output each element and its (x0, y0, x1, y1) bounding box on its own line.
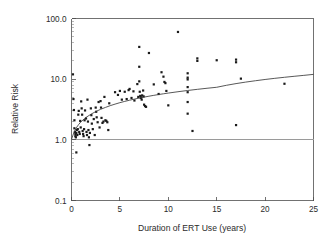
scatter-point (165, 90, 167, 92)
scatter-point (138, 80, 140, 82)
scatter-point (187, 113, 189, 115)
scatter-point (95, 106, 97, 108)
scatter-point (73, 109, 75, 111)
scatter-point (98, 101, 100, 103)
scatter-point (119, 90, 121, 92)
scatter-point (164, 82, 166, 84)
scatter-point (136, 83, 138, 85)
y-tick-label: 100.0 (46, 15, 67, 24)
scatter-point (187, 91, 189, 93)
scatter-point (107, 129, 109, 131)
scatter-point (89, 132, 91, 134)
scatter-point (87, 129, 89, 131)
scatter-point (139, 91, 141, 93)
scatter-point (79, 133, 81, 135)
scatter-point (76, 134, 78, 136)
scatter-point (235, 61, 237, 63)
scatter-point (114, 91, 116, 93)
scatter-point (187, 101, 189, 103)
y-tick-label: 0.1 (55, 197, 67, 206)
scatter-point (75, 132, 77, 134)
scatter-point (75, 151, 77, 153)
scatter-point (196, 60, 198, 62)
scatter-point (138, 46, 140, 48)
scatter-point (93, 118, 95, 120)
scatter-point (84, 109, 86, 111)
scatter-point (81, 107, 83, 109)
x-tick-label: 20 (261, 205, 271, 214)
scatter-point (75, 136, 77, 138)
scatter-point (102, 120, 104, 122)
scatter-point (72, 98, 74, 100)
scatter-point (187, 86, 189, 88)
scatter-point (98, 126, 100, 128)
y-tick-label: 10.0 (51, 75, 67, 84)
scatter-point (133, 99, 135, 101)
scatter-point (132, 90, 134, 92)
scatter-point (187, 72, 189, 74)
scatter-point (187, 78, 189, 80)
scatter-point (87, 120, 89, 122)
scatter-point (128, 88, 130, 90)
scatter-point (106, 121, 108, 123)
scatter-point (82, 133, 84, 135)
x-tick-label: 0 (69, 205, 74, 214)
scatter-point (73, 119, 75, 121)
scatter-point (103, 96, 105, 98)
scatter-point (88, 136, 90, 138)
scatter-point (80, 126, 82, 128)
x-axis-title: Duration of ERT Use (years) (138, 223, 246, 233)
scatter-point (121, 99, 123, 101)
scatter-point (148, 52, 150, 54)
scatter-point (88, 144, 90, 146)
y-tick-label: 1.0 (55, 136, 67, 145)
scatter-point (73, 127, 75, 129)
scatter-point (117, 94, 119, 96)
scatter-point (86, 99, 88, 101)
x-tick-label: 10 (164, 205, 174, 214)
scatter-point (145, 106, 147, 108)
scatter-point (196, 57, 198, 59)
scatter-point (85, 131, 87, 133)
scatter-point (240, 78, 242, 80)
scatter-point (124, 91, 126, 93)
scatter-point (141, 99, 143, 101)
scatter-point (100, 106, 102, 108)
scatter-point (283, 83, 285, 85)
scatter-point (77, 128, 79, 130)
scatter-point (235, 124, 237, 126)
scatter-point (83, 128, 85, 130)
scatter-point (77, 114, 79, 116)
scatter-point (99, 100, 101, 102)
scatter-point (153, 83, 155, 85)
chart-figure: 0.11.010.0100.0 0510152025 Duration of E… (0, 0, 332, 241)
scatter-point (97, 121, 99, 123)
scatter-point (167, 104, 169, 106)
scatter-point (78, 131, 80, 133)
scatter-point (78, 110, 80, 112)
scatter-point (100, 117, 102, 119)
scatter-point (81, 114, 83, 116)
scatter-point (108, 102, 110, 104)
x-tick-label: 25 (309, 205, 319, 214)
scatter-point (177, 31, 179, 33)
scatter-point (162, 76, 164, 78)
scatter-point (86, 134, 88, 136)
scatter-point (90, 107, 92, 109)
scatter-point (142, 89, 144, 91)
scatter-point (126, 98, 128, 100)
scatter-plot-svg: 0.11.010.0100.0 0510152025 Duration of E… (0, 0, 332, 241)
scatter-point (96, 116, 98, 118)
scatter-point (72, 73, 74, 75)
scatter-point (80, 100, 82, 102)
x-tick-label: 5 (118, 205, 123, 214)
scatter-point (94, 134, 96, 136)
scatter-point (130, 97, 132, 99)
scatter-point (91, 123, 93, 125)
scatter-point (92, 128, 94, 130)
scatter-point (191, 130, 193, 132)
scatter-point (83, 135, 85, 137)
x-tick-label: 15 (212, 205, 222, 214)
y-axis-title: Relative Risk (10, 83, 20, 134)
scatter-point (216, 59, 218, 61)
